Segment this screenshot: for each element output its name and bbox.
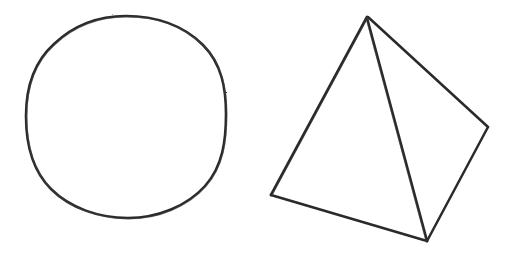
sketch-canvas [0, 0, 513, 261]
sketch-drawing [0, 0, 513, 261]
